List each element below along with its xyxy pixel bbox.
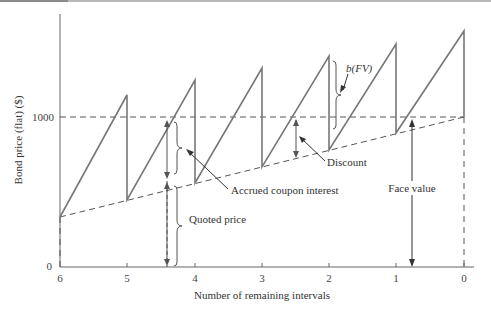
x-tick-6: 6 bbox=[57, 272, 63, 284]
x-tick-3: 3 bbox=[259, 272, 265, 284]
y-axis-title: Bond price (flat) ($) bbox=[12, 95, 25, 184]
x-ticks bbox=[127, 263, 464, 267]
accrued-coupon-label: Accrued coupon interest bbox=[231, 184, 339, 196]
x-tick-1: 1 bbox=[393, 272, 399, 284]
discount-arrow bbox=[293, 119, 325, 161]
x-tick-0: 0 bbox=[461, 272, 467, 284]
y-tick-1000: 1000 bbox=[32, 111, 55, 123]
x-tick-5: 5 bbox=[124, 272, 130, 284]
bfv-label: b(FV) bbox=[346, 62, 373, 75]
x-tick-2: 2 bbox=[326, 272, 332, 284]
discount-label: Discount bbox=[327, 156, 367, 168]
y-tick-0: 0 bbox=[47, 260, 53, 272]
bond-price-diagram: 6 5 4 3 2 1 0 1000 0 Number of remaining… bbox=[0, 0, 491, 318]
x-tick-4: 4 bbox=[192, 272, 198, 284]
face-value-label: Face value bbox=[388, 182, 435, 194]
x-axis-title: Number of remaining intervals bbox=[194, 289, 330, 301]
quoted-price-label: Quoted price bbox=[189, 213, 246, 225]
